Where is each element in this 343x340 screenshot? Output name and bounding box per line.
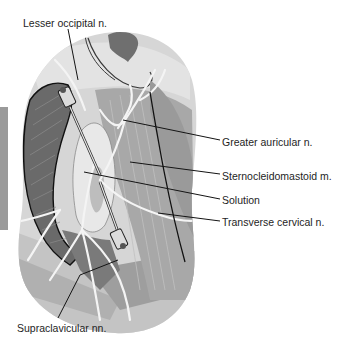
label-solution: Solution — [222, 194, 260, 206]
label-transverse-cervical: Transverse cervical n. — [222, 216, 324, 228]
label-lesser-occipital: Lesser occipital n. — [23, 17, 107, 29]
anatomy-figure: Lesser occipital n. Greater auricular n.… — [0, 0, 343, 340]
label-sternocleidomastoid: Sternocleidomastoid m. — [222, 170, 332, 182]
label-supraclavicular: Supraclavicular nn. — [17, 322, 106, 334]
label-greater-auricular: Greater auricular n. — [222, 136, 312, 148]
